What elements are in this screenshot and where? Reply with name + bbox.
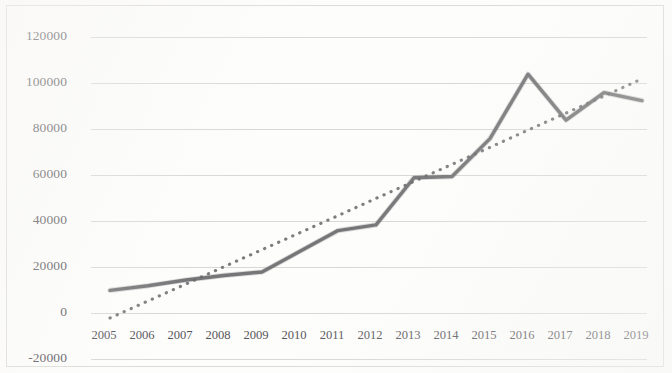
chart-plot-frame: 120000100000800006000040000200000-20000 … [6,5,664,367]
series-layer [7,6,672,373]
plot-area: 120000100000800006000040000200000-20000 … [7,6,663,366]
data-series-line-shadow [110,74,642,290]
line-chart-figure: 120000100000800006000040000200000-20000 … [0,0,672,373]
data-series-line [110,74,642,290]
